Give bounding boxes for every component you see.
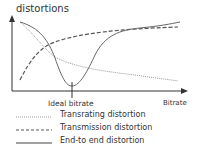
legend-label-end-to-end: End-to end distortion <box>60 136 144 145</box>
x-axis-arrow-icon <box>181 88 188 94</box>
legend-label-transmission: Transmission distortion <box>60 123 152 132</box>
y-axis-label: distortions <box>16 3 69 14</box>
legend-label-transrating: Transrating distortion <box>60 110 146 119</box>
x-axis-label: Bitrate <box>163 99 187 107</box>
transmission-curve <box>20 27 178 80</box>
transrating-curve <box>20 22 178 81</box>
ideal-bitrate-label: Ideal bitrate <box>48 99 94 108</box>
y-axis-arrow-icon <box>9 15 15 22</box>
end-to-end-curve <box>20 22 180 86</box>
